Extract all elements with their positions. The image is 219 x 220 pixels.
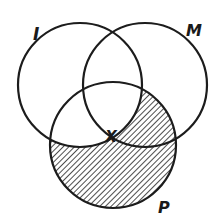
label-p: P [158, 198, 170, 217]
label-i: I [33, 24, 39, 44]
label-x-region-marker: X [104, 128, 118, 146]
venn-diagram: I M P X [0, 0, 219, 220]
label-m: M [186, 21, 202, 40]
